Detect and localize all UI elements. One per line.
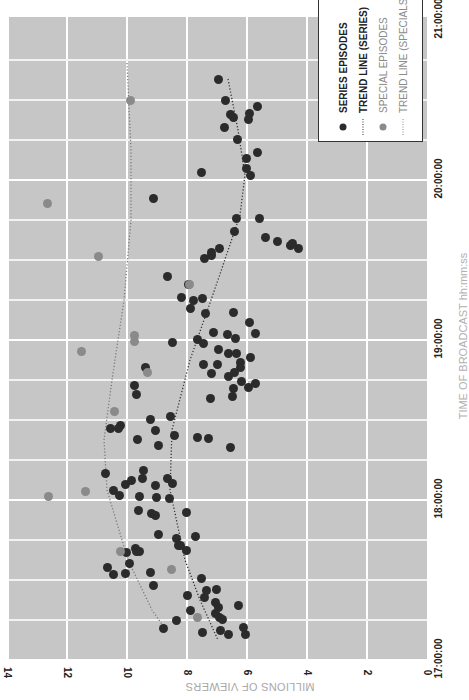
series-episode-point [115,491,124,500]
series-episode-point [232,214,241,223]
series-episode-point [177,293,186,302]
series-episode-point [134,506,143,515]
series-episode-point [163,272,172,281]
series-episode-point [114,424,123,433]
series-episode-point [224,630,233,639]
y-tick-label: 10 [122,665,133,681]
series-episode-point [189,296,198,305]
series-episode-point [261,233,270,242]
series-episode-point [213,360,222,369]
series-episode-point [224,372,233,381]
series-episode-point [273,237,282,246]
series-episode-point [154,441,163,450]
special-dot-icon [380,124,387,131]
series-episode-point [246,171,255,180]
series-episode-point [232,349,241,358]
series-episode-point [149,581,158,590]
series-episode-point [251,329,260,338]
series-episode-point [183,591,192,600]
series-episode-point [168,338,177,347]
series-episode-point [294,244,303,253]
special-episode-point [116,547,125,556]
series-episode-point [242,154,251,163]
series-episode-point [200,593,209,602]
series-episode-point [109,570,118,579]
x-tick-label: 17:00:00 [433,638,444,678]
series-episode-point [244,383,253,392]
special-episode-point [193,613,202,622]
series-episode-point [130,381,139,390]
series-episode-point [215,244,224,253]
series-episode-point [151,511,160,520]
series-episode-point [224,349,233,358]
special-episode-point [143,368,152,377]
y-tick-label: 2 [362,665,373,681]
series-episode-point [214,75,223,84]
x-tick-label: 18:00:00 [433,478,444,518]
series-episode-point [159,624,168,633]
special-episode-point [130,337,139,346]
legend-label-trend-series: TREND LINE (SERIES) [358,7,369,113]
series-episode-point [193,433,202,442]
series-episode-point [146,415,155,424]
series-episode-point [132,390,141,399]
series-episode-point [209,328,218,337]
y-tick-label: 0 [422,665,433,681]
special-episode-point [43,199,52,208]
series-episode-point [154,530,163,539]
series-episode-point [149,194,158,203]
legend-graphics: SERIES EPISODES TREND LINE (SERIES) SPEC… [319,0,422,141]
series-episode-point [197,574,206,583]
special-episode-point [94,252,103,261]
series-episode-point [182,508,191,517]
special-episode-point [44,492,53,501]
legend: SERIES EPISODES TREND LINE (SERIES) SPEC… [318,0,423,142]
special-episode-point [81,487,90,496]
series-episode-point [197,168,206,177]
series-episode-point [226,443,235,452]
x-tick-label: 21:00:00 [433,0,444,39]
legend-label-trend-specials: TREND LINE (SPECIALS) [398,0,409,113]
series-episode-point [121,569,130,578]
special-episode-point [126,96,135,105]
series-episode-point [253,102,262,111]
series-episode-point [253,148,262,157]
series-episode-point [198,294,207,303]
series-episode-point [200,254,209,263]
y-tick-label: 14 [2,665,13,681]
series-episode-point [201,309,210,318]
legend-label-specials: SPECIAL EPISODES [378,17,389,113]
series-episode-point [135,492,144,501]
series-episode-point [151,481,160,490]
series-episode-point [214,345,223,354]
series-dot-icon [340,124,347,131]
series-episode-point [168,479,177,488]
series-episode-point [186,606,195,615]
series-episode-point [151,426,160,435]
y-tick-label: 4 [302,665,313,681]
series-episode-point [176,541,185,550]
series-episode-point [198,628,207,637]
series-episode-point [106,424,115,433]
series-episode-point [152,493,161,502]
y-tick-label: 8 [182,665,193,681]
series-episode-point [220,123,229,132]
trend-line [170,79,245,640]
series-episode-point [135,547,144,556]
series-episode-point [170,431,179,440]
special-episode-point [110,407,119,416]
special-episode-point [77,347,86,356]
series-episode-point [138,474,147,483]
series-episode-point [246,353,255,362]
series-episode-point [229,113,238,122]
series-episode-point [101,469,110,478]
y-tick-label: 12 [62,665,73,681]
series-episode-point [233,135,242,144]
series-episode-point [241,630,250,639]
series-episode-point [199,360,208,369]
series-episode-point [221,96,230,105]
series-episode-point [244,115,253,124]
series-episode-point [146,568,155,577]
series-episode-point [228,392,237,401]
y-axis-label: MILLIONS OF VIEWERS [170,681,330,693]
